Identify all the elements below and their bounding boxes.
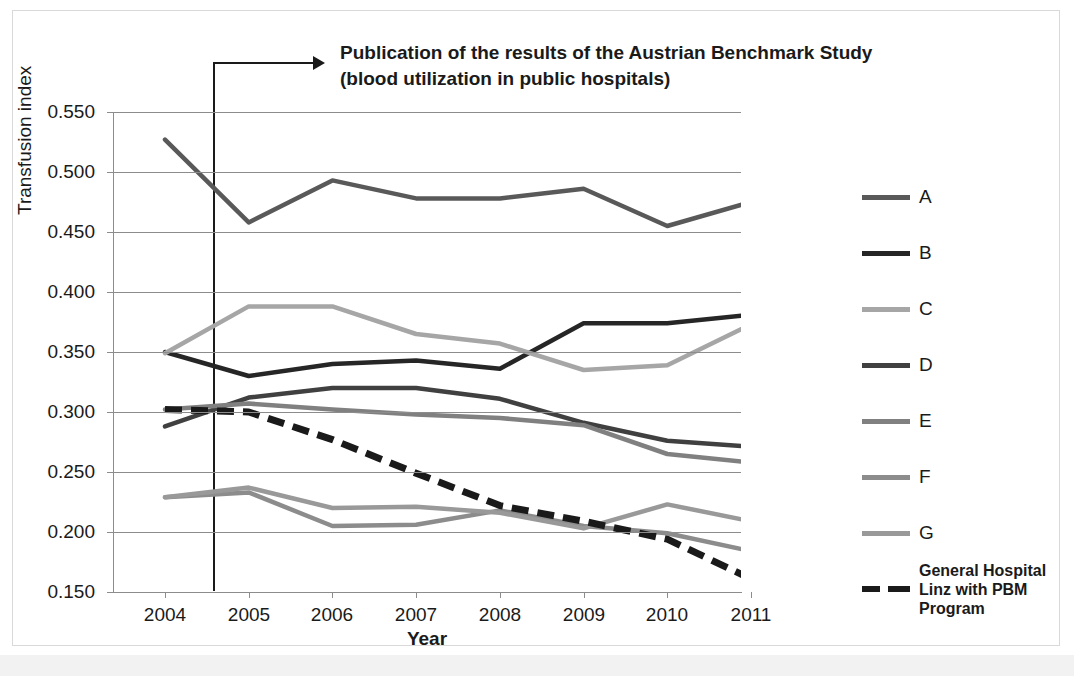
x-tick [332,592,333,598]
legend-swatch-icon [862,419,910,424]
legend-swatch-icon [862,363,910,368]
legend-item-label: D [919,354,933,376]
annotation-horizontal-line [213,62,320,64]
x-tick-label: 2008 [479,604,521,626]
gridline [113,592,741,593]
legend-swatch-icon [862,307,910,312]
legend-item-label: A [919,186,932,208]
y-tick [107,412,113,413]
legend-item-e[interactable]: E [862,410,932,432]
x-tick-label: 2005 [228,604,270,626]
legend-item-b[interactable]: B [862,242,932,264]
annotation-arrowhead-icon [313,56,325,70]
legend-item-g[interactable]: G [862,522,934,544]
y-tick [107,112,113,113]
x-axis-title: Year [113,628,741,650]
chart-figure: Publication of the results of the Austri… [0,0,1074,676]
x-tick-label: 2011 [731,604,772,626]
legend-item-general[interactable]: General Hospital Linz with PBM Program [862,578,1069,600]
x-tick [667,592,668,598]
legend-item-f[interactable]: F [862,466,931,488]
legend-swatch-icon [862,251,910,256]
legend-item-a[interactable]: A [862,186,932,208]
legend-item-label: C [919,298,933,320]
gridline [113,352,741,353]
legend-swatch-icon [862,531,910,536]
x-tick [165,592,166,598]
legend-item-label: E [919,410,932,432]
y-tick [107,232,113,233]
x-tick [584,592,585,598]
y-tick [107,172,113,173]
y-tick [107,532,113,533]
y-tick-label: 0.300 [47,401,95,423]
legend-item-label: General Hospital Linz with PBM Program [919,561,1069,618]
gridline [113,472,741,473]
gridline [113,172,741,173]
series-line-a [165,140,741,226]
x-tick-label: 2009 [563,604,605,626]
x-tick-label: 2007 [395,604,437,626]
y-tick [107,292,113,293]
x-tick [500,592,501,598]
y-tick [107,592,113,593]
y-tick-label: 0.150 [47,581,95,603]
x-tick [751,592,752,598]
x-tick [416,592,417,598]
y-tick-label: 0.550 [47,101,95,123]
y-tick-label: 0.350 [47,341,95,363]
gridline [113,112,741,113]
gridline [113,532,741,533]
legend-item-d[interactable]: D [862,354,933,376]
legend-item-label: G [919,522,934,544]
y-tick-label: 0.400 [47,281,95,303]
annotation-text-line2: (blood utilization in public hospitals) [340,66,872,92]
legend-item-label: B [919,242,932,264]
y-axis-title: Transfusion index [14,66,36,215]
y-tick [107,352,113,353]
annotation-text-line1: Publication of the results of the Austri… [340,40,872,66]
x-tick [249,592,250,598]
x-tick-label: 2004 [144,604,186,626]
y-tick [107,472,113,473]
x-tick-label: 2006 [311,604,353,626]
legend-swatch-icon [862,195,910,200]
series-line-f [165,492,741,551]
legend-swatch-icon [862,586,910,592]
series-line-c [165,306,741,370]
y-tick-label: 0.500 [47,161,95,183]
y-tick-label: 0.450 [47,221,95,243]
gridline [113,232,741,233]
legend-item-c[interactable]: C [862,298,933,320]
y-tick-label: 0.200 [47,521,95,543]
plot-area: 0.5500.5000.4500.4000.3500.3000.2500.200… [113,112,741,592]
x-tick-label: 2010 [646,604,688,626]
annotation-text: Publication of the results of the Austri… [340,40,872,92]
legend-swatch-icon [862,475,910,480]
y-tick-label: 0.250 [47,461,95,483]
gridline [113,412,741,413]
figure-bottom-band [0,655,1074,676]
gridline [113,292,741,293]
legend-item-label: F [919,466,931,488]
